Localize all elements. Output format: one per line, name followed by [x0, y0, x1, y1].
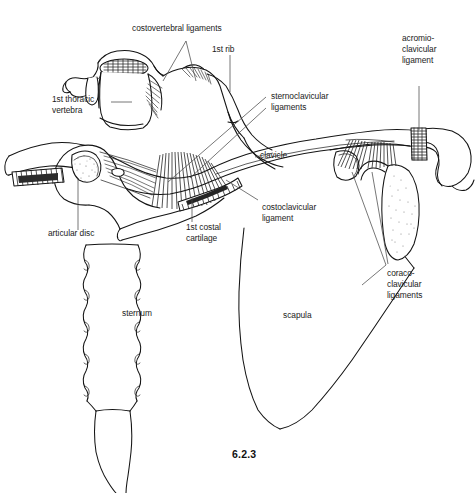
label-first-thoracic-vertebra-line1: 1st thoracic — [52, 94, 94, 104]
sternum-group — [83, 244, 141, 493]
first-rib-head-and-neck — [163, 67, 244, 138]
label-costoclavicular-ligament-line2: ligament — [262, 213, 293, 223]
first-costal-cartilage-group — [117, 178, 242, 241]
label-first-thoracic-vertebra-line2: vertebra — [52, 105, 82, 115]
sternum-top-edge — [86, 244, 138, 245]
label-first-costal-cartilage-line1: 1st costal — [186, 222, 221, 232]
sternum-xiphoid-right — [126, 411, 132, 493]
label-coracoclavicular-ligaments-line1: coraco- — [387, 268, 415, 278]
sternum-left-border — [83, 245, 88, 401]
sternum-right-border — [136, 245, 141, 401]
sternum-xiphoid-top — [96, 410, 130, 412]
label-costoclavicular-ligament-line1: costoclavicular — [262, 202, 316, 212]
label-clavicle: clavicle — [260, 150, 287, 160]
anatomy-figure: costovertebral ligaments 1st rib acromio… — [0, 0, 475, 493]
costal-cartilage-medial-end — [117, 229, 122, 241]
vertebra-body — [100, 72, 152, 130]
coracoid-process — [382, 165, 419, 260]
leader-coracoclavicular-3 — [362, 265, 386, 285]
label-first-costal-cartilage-line2: cartilage — [186, 233, 217, 243]
figure-number: 6.2.3 — [232, 448, 256, 460]
anatomy-drawing — [0, 0, 475, 493]
acromioclavicular-ligament-hatch — [411, 128, 427, 160]
label-articular-disc: articular disc — [48, 228, 94, 238]
label-sternoclavicular-ligaments-line1: sternoclavicular — [271, 91, 328, 101]
scapula-medial-border — [239, 228, 280, 429]
label-acromioclavicular-ligament-line1: acromio- — [402, 33, 434, 43]
label-coracoclavicular-ligaments-line3: ligaments — [387, 290, 422, 300]
leader-coracoclavicular-1 — [352, 172, 386, 265]
label-sternum: sternum — [122, 308, 152, 318]
label-scapula: scapula — [283, 310, 312, 320]
label-acromioclavicular-ligament-line2: clavicular — [402, 44, 436, 54]
clavicle-sternal-end — [5, 156, 9, 175]
acromioclavicular-group — [330, 128, 474, 260]
coracoclavicular-ligament-fan-conoid — [368, 142, 396, 168]
sternum-right-notch-details — [135, 260, 140, 396]
sternum-body-to-xiphoid-left — [87, 401, 96, 411]
sternum-xiphoid-left — [95, 411, 117, 493]
sternum-left-notch-details — [84, 260, 89, 396]
label-acromioclavicular-ligament-line3: ligament — [402, 55, 433, 65]
label-sternoclavicular-ligaments-line2: ligaments — [271, 102, 306, 112]
manubrium-foramen — [112, 169, 124, 177]
label-first-rib: 1st rib — [212, 44, 234, 54]
label-coracoclavicular-ligaments-line2: clavicular — [387, 279, 421, 289]
sternum-body-to-xiphoid-right — [130, 401, 137, 411]
costoclavicular-attachment-band — [178, 178, 242, 211]
label-costovertebral-ligaments: costovertebral ligaments — [132, 23, 222, 33]
manubrium-jugular-notch — [89, 205, 120, 229]
left-costoclavicular-hatch-block — [12, 168, 64, 186]
scapula-group — [239, 228, 414, 429]
